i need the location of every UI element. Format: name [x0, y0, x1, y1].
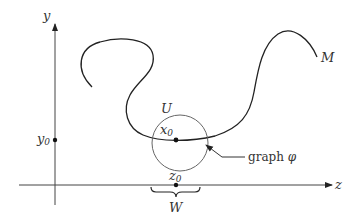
z-axis-label: z: [334, 177, 342, 192]
graph-leader-line: [206, 145, 245, 157]
graph-label: graph φ: [248, 150, 297, 164]
manifold-graph-diagram: y z y0 M U x0 graph φ z0 W: [0, 0, 354, 217]
manifold-label: M: [320, 50, 335, 65]
y0-point: [53, 138, 57, 142]
interval-brace: [151, 187, 200, 197]
x0-point: [174, 138, 179, 143]
z0-label: z0: [168, 168, 182, 184]
neighborhood-label: U: [161, 101, 173, 116]
y0-label: y0: [36, 131, 50, 147]
y-axis-label: y: [42, 8, 51, 23]
manifold-curve: [81, 31, 317, 140]
interval-label: W: [169, 200, 184, 215]
x0-label: x0: [160, 122, 173, 138]
